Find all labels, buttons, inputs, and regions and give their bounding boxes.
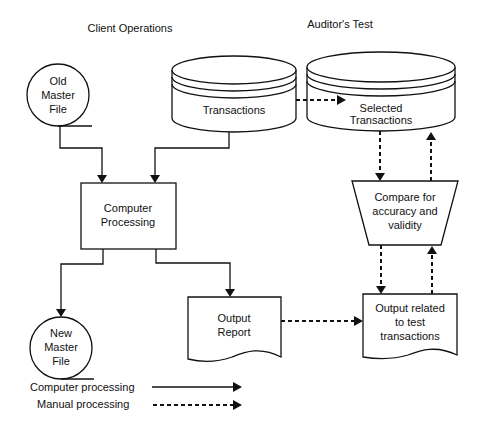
legend-computer-processing-label: Computer processing [30, 381, 135, 393]
output-related-node: Output related to test transactions [363, 294, 457, 359]
audit-flowchart: Client Operations Auditor's Test Old Mas… [0, 0, 487, 430]
old-master-file-node: Old Master File [27, 64, 92, 126]
svg-text:Computer: Computer [104, 202, 153, 214]
svg-text:Compare for: Compare for [374, 191, 435, 203]
svg-text:validity: validity [388, 219, 422, 231]
svg-text:Processing: Processing [101, 216, 155, 228]
svg-text:accuracy and: accuracy and [372, 205, 437, 217]
svg-text:File: File [52, 355, 70, 367]
output-report-node: Output Report [188, 297, 281, 361]
svg-text:Old: Old [49, 75, 66, 87]
computer-processing-node: Computer Processing [81, 183, 176, 249]
svg-text:to test: to test [395, 316, 425, 328]
svg-text:Master: Master [44, 341, 78, 353]
svg-text:transactions: transactions [380, 330, 440, 342]
selected-transactions-disk-node: Selected Transactions [307, 52, 455, 131]
header-client-operations: Client Operations [88, 22, 173, 34]
svg-text:Selected: Selected [360, 102, 403, 114]
svg-text:Output: Output [217, 312, 250, 324]
legend-manual-processing-label: Manual processing [37, 398, 129, 410]
svg-text:Master: Master [41, 89, 75, 101]
legend: Computer processing Manual processing [30, 381, 242, 410]
compare-node: Compare for accuracy and validity [352, 181, 458, 245]
svg-text:Output related: Output related [375, 302, 445, 314]
transactions-disk-node: Transactions [172, 56, 296, 132]
svg-text:Report: Report [217, 326, 250, 338]
new-master-file-node: New Master File [30, 317, 94, 379]
svg-text:Transactions: Transactions [203, 104, 266, 116]
header-auditors-test: Auditor's Test [307, 18, 372, 30]
svg-text:File: File [49, 103, 67, 115]
svg-text:Transactions: Transactions [350, 114, 413, 126]
svg-text:New: New [50, 327, 72, 339]
